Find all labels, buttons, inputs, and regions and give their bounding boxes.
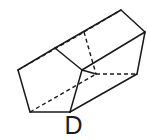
figure-container: D <box>0 0 147 140</box>
figure-label: D <box>0 112 147 139</box>
